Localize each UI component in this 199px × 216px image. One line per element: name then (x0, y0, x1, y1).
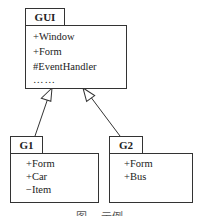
package-member: −Item (26, 183, 98, 196)
package-member: +Form (124, 157, 192, 170)
package-member: #EventHandler (33, 60, 126, 73)
package-g1-tab: G1 (10, 136, 43, 154)
package-member: +Form (33, 45, 126, 58)
package-member: +Form (26, 157, 98, 170)
package-g1-name: G1 (19, 139, 33, 151)
package-g1-body: +Form +Car −Item (10, 153, 99, 203)
package-member: …… (33, 73, 126, 86)
package-gui-body: +Window +Form #EventHandler …… (25, 25, 127, 89)
package-g2-name: G2 (119, 139, 133, 151)
package-g2-tab: G2 (109, 136, 143, 154)
package-member: +Window (33, 30, 126, 43)
package-member: +Car (26, 170, 98, 183)
package-gui-tab: GUI (25, 8, 65, 26)
figure-caption: 图 ... 示例 (0, 208, 199, 216)
package-g2-body: +Form +Bus (109, 153, 193, 203)
package-gui-name: GUI (35, 11, 56, 23)
package-member: +Bus (124, 170, 192, 183)
